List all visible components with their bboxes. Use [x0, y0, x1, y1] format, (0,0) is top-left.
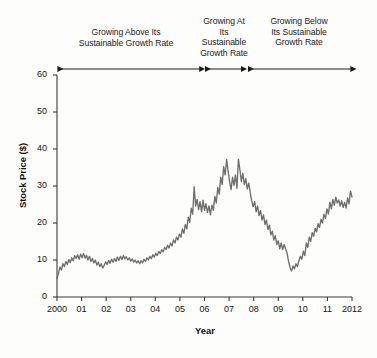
y-tick-label: 60: [25, 69, 47, 79]
y-tick-label: 0: [25, 291, 47, 301]
x-tick-label: 06: [197, 304, 213, 314]
axes: [53, 75, 352, 301]
x-tick-label: 03: [123, 304, 139, 314]
x-tick-label: 01: [74, 304, 90, 314]
x-tick-label: 09: [270, 304, 286, 314]
data-series: [57, 159, 352, 278]
x-tick-label: 02: [98, 304, 114, 314]
y-tick-label: 50: [25, 106, 47, 116]
x-tick-label: 2000: [44, 304, 70, 314]
y-tick-label: 10: [25, 254, 47, 264]
stock-price-line: [57, 159, 352, 278]
x-tick-label: 10: [295, 304, 311, 314]
y-tick-label: 30: [25, 180, 47, 190]
x-tick-label: 04: [147, 304, 163, 314]
x-tick-label: 11: [319, 304, 335, 314]
x-tick-label: 07: [221, 304, 237, 314]
y-tick-label: 40: [25, 143, 47, 153]
x-tick-label: 08: [246, 304, 262, 314]
x-tick-label: 05: [172, 304, 188, 314]
x-tick-label: 2012: [339, 304, 365, 314]
chart-figure: Growing Above Its Sustainable Growth Rat…: [0, 0, 377, 358]
y-tick-label: 20: [25, 217, 47, 227]
